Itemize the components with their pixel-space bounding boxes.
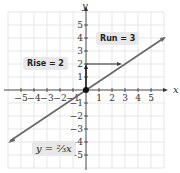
svg-text:3: 3 xyxy=(122,93,128,103)
svg-text:4: 4 xyxy=(77,33,83,43)
x-tick-labels: −5−4−3−2−1 12345 xyxy=(14,93,154,103)
origin-point xyxy=(83,87,89,93)
svg-text:−2: −2 xyxy=(70,111,83,121)
svg-text:−4: −4 xyxy=(27,93,41,103)
rise-label: Rise = 2 xyxy=(23,57,68,70)
coordinate-plane: −5−4−3−2−1 12345 54321 −1−2−3−4−5 x y xyxy=(0,0,180,173)
svg-text:5: 5 xyxy=(77,20,83,30)
y-axis-label: y xyxy=(81,0,88,11)
svg-text:1: 1 xyxy=(96,93,102,103)
x-axis-label: x xyxy=(173,84,179,95)
svg-text:2: 2 xyxy=(77,59,83,69)
svg-text:−2: −2 xyxy=(53,93,66,103)
equation-label: y = ⅔x xyxy=(32,141,76,156)
svg-text:3: 3 xyxy=(77,46,83,56)
svg-text:−3: −3 xyxy=(40,93,54,103)
svg-text:1: 1 xyxy=(77,72,83,82)
svg-text:5: 5 xyxy=(148,93,154,103)
svg-text:2: 2 xyxy=(109,93,115,103)
run-label: Run = 3 xyxy=(96,32,139,45)
svg-text:4: 4 xyxy=(135,93,141,103)
svg-text:−5: −5 xyxy=(14,93,28,103)
svg-text:−3: −3 xyxy=(70,124,84,134)
